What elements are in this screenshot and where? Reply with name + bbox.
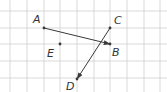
- point-e: [59, 43, 62, 46]
- point-label-a: A: [32, 13, 41, 26]
- grid: [0, 0, 167, 92]
- point-label-d: D: [66, 80, 74, 92]
- point-d: [76, 78, 79, 81]
- point-label-c: C: [114, 14, 122, 27]
- point-label-b: B: [112, 46, 120, 59]
- point-a: [43, 27, 46, 30]
- point-c: [109, 27, 112, 30]
- vector-diagram: ABCDE: [0, 0, 167, 92]
- point-b: [109, 43, 112, 46]
- vector-cd: [77, 28, 110, 79]
- point-label-e: E: [47, 47, 54, 60]
